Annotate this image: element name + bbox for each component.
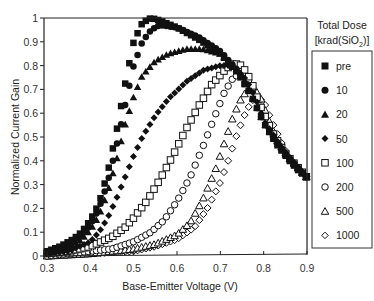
y-axis: 00.10.20.30.40.50.60.70.80.91 xyxy=(23,12,307,262)
legend-item-500: 500 xyxy=(321,205,353,217)
legend-item-10: 10 xyxy=(322,84,348,96)
legend-item-50: 50 xyxy=(322,133,348,145)
legend-label: 20 xyxy=(336,108,348,120)
y-axis-title: Normalized Current Gain xyxy=(9,79,21,195)
y-tick-label: 0 xyxy=(32,250,38,262)
legend-label: 10 xyxy=(336,84,348,96)
legend-label: pre xyxy=(336,60,351,72)
y-tick-label: 1 xyxy=(32,12,38,24)
x-axis-title: Base-Emitter Voltage (V) xyxy=(122,280,238,292)
x-tick-label: 0.6 xyxy=(170,262,185,274)
legend-box xyxy=(312,51,372,248)
legend-item-200: 200 xyxy=(322,181,354,193)
y-tick-label: 0.5 xyxy=(23,131,38,143)
legend-label: 100 xyxy=(336,157,354,169)
plot-area xyxy=(43,15,310,259)
y-tick-label: 0.1 xyxy=(23,226,38,238)
legend-title-line2: [krad(SiO2)] xyxy=(315,34,370,48)
legend-label: 200 xyxy=(336,181,354,193)
x-tick-label: 0.7 xyxy=(213,262,228,274)
x-tick-label: 0.5 xyxy=(126,262,141,274)
legend-item-pre: pre xyxy=(322,60,352,72)
series-10 xyxy=(44,22,310,257)
legend: Total Dose [krad(SiO2)] pre1020501002005… xyxy=(312,19,372,248)
chart-canvas: 0.30.40.50.60.70.80.9 00.10.20.30.40.50.… xyxy=(0,0,374,301)
legend-label: 500 xyxy=(336,205,354,217)
y-tick-label: 0.8 xyxy=(23,60,38,72)
y-tick-label: 0.7 xyxy=(23,83,38,95)
legend-item-1000: 1000 xyxy=(322,229,360,241)
x-tick-label: 0.3 xyxy=(40,262,55,274)
x-tick-label: 0.9 xyxy=(300,262,315,274)
legend-item-100: 100 xyxy=(322,157,354,169)
x-tick-label: 0.4 xyxy=(83,262,98,274)
legend-label: 1000 xyxy=(336,229,360,241)
y-tick-label: 0.9 xyxy=(23,36,38,48)
legend-label: 50 xyxy=(336,133,348,145)
legend-item-20: 20 xyxy=(321,108,348,120)
y-tick-label: 0.6 xyxy=(23,107,38,119)
legend-title-line1: Total Dose xyxy=(317,19,367,31)
y-tick-label: 0.4 xyxy=(23,155,38,167)
y-tick-label: 0.2 xyxy=(23,202,38,214)
x-tick-label: 0.8 xyxy=(256,262,271,274)
y-tick-label: 0.3 xyxy=(23,179,38,191)
